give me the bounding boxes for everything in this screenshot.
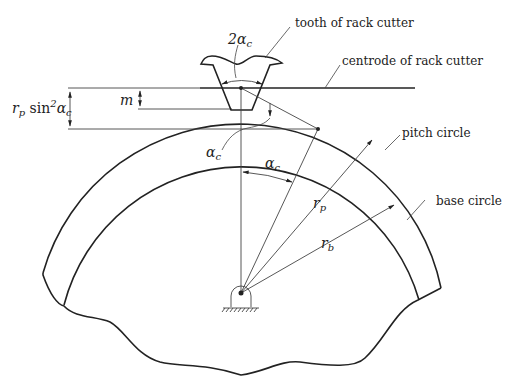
alpha-c-left-label: αc xyxy=(206,144,221,162)
centrode-label: centrode of rack cutter xyxy=(342,54,483,68)
pitch-point xyxy=(239,86,243,90)
rp-label: rp xyxy=(313,195,327,213)
alpha-angle-arc xyxy=(243,172,292,182)
two-alpha-angle-arc xyxy=(222,81,262,85)
tooth-leader xyxy=(265,27,290,58)
alpha-c-angle-label: αc xyxy=(265,155,280,173)
two-alpha-label: 2αc xyxy=(227,31,252,49)
rb-radius-line xyxy=(241,205,394,293)
m-label: m xyxy=(120,92,133,108)
tooth-label: tooth of rack cutter xyxy=(295,16,414,30)
base-circle-leader xyxy=(407,200,425,220)
rack-cutter-gear-diagram: tooth of rack cutter centrode of rack cu… xyxy=(0,0,507,384)
base-circle-arc xyxy=(64,167,419,305)
base-circle-label: base circle xyxy=(436,194,502,208)
rp-radius-line xyxy=(241,140,372,293)
pitch-circle-arc xyxy=(43,124,441,288)
pitch-circle-leader xyxy=(385,135,400,150)
rack-tooth xyxy=(201,56,282,110)
two-alpha-leader xyxy=(235,45,238,78)
center-point xyxy=(239,291,244,296)
contact-point xyxy=(316,127,320,131)
radius-to-contact-point xyxy=(241,129,318,293)
centrode-leader xyxy=(325,65,340,88)
rp-sin2-label: rp sin2αc xyxy=(12,98,72,118)
rb-label: rb xyxy=(321,235,334,253)
pitch-circle-label: pitch circle xyxy=(402,126,471,140)
gear-body-outline xyxy=(43,273,441,375)
alpha-leader-left xyxy=(222,118,270,150)
ground-hatch xyxy=(222,308,257,312)
